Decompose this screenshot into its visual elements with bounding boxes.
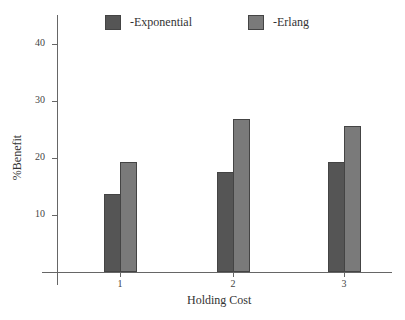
y-tick-label: 40 (25, 37, 45, 48)
x-tick (120, 272, 121, 277)
legend-swatch-erlang (248, 15, 264, 30)
y-tick (52, 101, 57, 102)
legend-label-exponential: -Exponential (130, 15, 192, 30)
x-axis (42, 272, 392, 273)
y-tick (52, 158, 57, 159)
y-tick (52, 215, 57, 216)
x-tick-label: 3 (334, 278, 354, 289)
bar-exponential-3 (328, 162, 345, 272)
bar-exponential-2 (217, 172, 234, 272)
x-tick-label: 2 (223, 278, 243, 289)
y-axis-label: %Benefit (10, 133, 25, 183)
y-tick (52, 44, 57, 45)
y-tick-label: 20 (25, 151, 45, 162)
y-tick-label: 10 (25, 208, 45, 219)
x-tick (233, 272, 234, 277)
y-tick-label: 30 (25, 94, 45, 105)
legend-label-erlang: -Erlang (273, 15, 309, 30)
bar-erlang-1 (120, 162, 137, 272)
x-tick-label: 1 (110, 278, 130, 289)
x-axis-label: Holding Cost (187, 293, 251, 308)
x-tick (344, 272, 345, 277)
y-axis (57, 15, 58, 285)
legend-swatch-exponential (105, 15, 121, 30)
bar-erlang-3 (344, 126, 361, 272)
bar-erlang-2 (233, 119, 250, 272)
bar-exponential-1 (104, 194, 121, 272)
